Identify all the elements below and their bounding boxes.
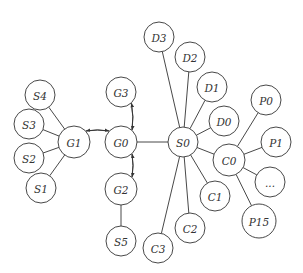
node-s5: S5 [106, 226, 136, 256]
node-label: S4 [33, 90, 47, 102]
node-label: P15 [248, 216, 270, 228]
edge-s0-c0 [197, 148, 214, 155]
edge-c0-p0 [237, 113, 258, 147]
node-label: C1 [208, 191, 223, 203]
node-label: G0 [113, 137, 128, 149]
node-d2: D2 [175, 42, 205, 72]
node-p15: P15 [242, 204, 276, 238]
node-s0: S0 [168, 127, 198, 157]
node-g0: G0 [105, 126, 137, 158]
node-label: D2 [181, 52, 197, 64]
node-c0: C0 [213, 144, 245, 176]
node-label: G2 [113, 184, 128, 196]
edge-c0-pdots [243, 168, 257, 175]
node-s3: S3 [14, 109, 44, 139]
edge-c0-p1 [244, 147, 262, 154]
edge-g0-g3 [132, 103, 133, 130]
node-p1: P1 [261, 127, 291, 157]
network-diagram: S4S3S2S1G1G0G3G2S5S0D3D2D1D0C0C1C2C3P0P1… [0, 0, 303, 273]
node-d3: D3 [144, 22, 174, 52]
node-pdots: ... [255, 167, 285, 197]
node-g1: G1 [58, 126, 90, 158]
node-label: S5 [114, 236, 128, 248]
node-label: D0 [215, 116, 231, 128]
node-d0: D0 [209, 106, 239, 136]
node-label: S2 [22, 153, 36, 165]
edge-c0-p15 [236, 174, 251, 205]
edge-s0-c1 [191, 155, 208, 183]
node-label: P0 [258, 95, 273, 107]
node-label: S0 [176, 137, 190, 149]
node-label: S3 [22, 119, 36, 131]
edge-s2-g1 [43, 147, 59, 153]
node-label: P1 [268, 137, 283, 149]
node-label: ... [265, 177, 275, 189]
node-g3: G3 [106, 77, 136, 107]
node-p0: P0 [251, 85, 281, 115]
node-d1: D1 [197, 72, 227, 102]
node-label: G1 [66, 137, 81, 149]
edge-s0-d2 [184, 72, 189, 127]
node-c1: C1 [200, 181, 230, 211]
node-c2: C2 [175, 213, 205, 243]
node-label: C3 [151, 243, 166, 255]
edge-s0-d0 [196, 128, 210, 135]
node-label: C0 [222, 155, 237, 167]
node-s1: S1 [26, 173, 56, 203]
edge-s1-g1 [50, 155, 65, 176]
nodes-layer: S4S3S2S1G1G0G3G2S5S0D3D2D1D0C0C1C2C3P0P1… [14, 22, 291, 263]
node-g2: G2 [105, 173, 137, 205]
node-s4: S4 [25, 80, 55, 110]
node-s2: S2 [14, 143, 44, 173]
edge-s0-c2 [184, 157, 189, 213]
node-label: G3 [113, 87, 128, 99]
edge-s0-d1 [190, 100, 205, 128]
edge-s3-g1 [43, 130, 59, 137]
node-label: D1 [203, 82, 219, 94]
node-label: D3 [150, 32, 166, 44]
node-label: C2 [183, 223, 198, 235]
node-c3: C3 [143, 233, 173, 263]
node-label: S1 [34, 183, 48, 195]
edge-s4-g1 [49, 107, 65, 129]
